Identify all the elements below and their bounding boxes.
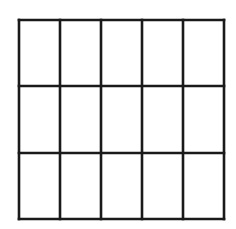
grid-diagram [0, 0, 236, 229]
